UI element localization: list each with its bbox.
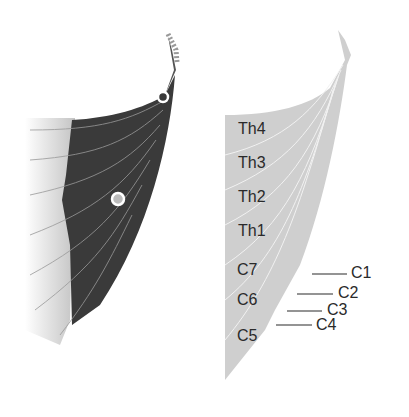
label-c4: C4 xyxy=(316,317,336,333)
label-c5: C5 xyxy=(237,328,257,344)
label-th2: Th2 xyxy=(238,189,266,205)
label-th4: Th4 xyxy=(238,121,266,137)
label-c7: C7 xyxy=(237,262,257,278)
label-c1: C1 xyxy=(351,265,371,281)
label-c6: C6 xyxy=(237,292,257,308)
right-segment-panel: Th4 Th3 Th2 Th1 C7 C6 C5 C1 C2 C3 C4 xyxy=(205,0,409,417)
muscle-dark-illustration xyxy=(0,0,205,417)
upper-marker-icon xyxy=(158,92,168,102)
label-c2: C2 xyxy=(338,285,358,301)
middle-marker-icon xyxy=(112,193,124,205)
label-th1: Th1 xyxy=(238,223,266,239)
muscle-segment-illustration xyxy=(205,0,409,417)
left-muscle-panel xyxy=(0,0,205,417)
label-th3: Th3 xyxy=(238,155,266,171)
